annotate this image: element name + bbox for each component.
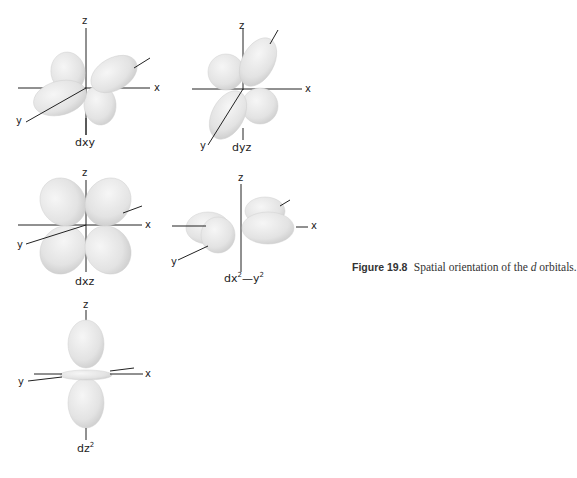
orbital-dx2-y2-panel: z x y dx2—y2 bbox=[160, 160, 340, 300]
y-axis-label: y bbox=[200, 141, 206, 151]
y-axis-label: y bbox=[16, 116, 22, 126]
orbital-dyz-diagram bbox=[180, 0, 320, 160]
x-axis-label: x bbox=[145, 220, 151, 230]
x-axis-label: x bbox=[311, 221, 317, 231]
orbital-dyz-panel: z x y dyz bbox=[180, 0, 320, 160]
y-axis-label: y bbox=[18, 377, 24, 387]
figure-number: Figure 19.8 bbox=[352, 261, 407, 273]
x-axis-label: x bbox=[154, 83, 160, 93]
z-axis-label: z bbox=[82, 168, 87, 178]
orbital-dz2-panel: z x y dz2 bbox=[0, 300, 180, 478]
z-axis-label: z bbox=[82, 16, 87, 26]
orbital-dxy-panel: z x y dxy bbox=[0, 0, 180, 160]
orbital-label-dz2: dz2 bbox=[77, 442, 94, 454]
orbital-label-dx2-y2: dx2—y2 bbox=[224, 272, 264, 284]
orbital-dxz-panel: z x y dxz bbox=[0, 160, 180, 300]
orbital-label-dxz: dxz bbox=[75, 276, 94, 287]
z-axis-label: z bbox=[239, 21, 244, 31]
y-axis-label: y bbox=[17, 240, 23, 250]
x-axis-label: x bbox=[145, 369, 151, 379]
z-axis-label: z bbox=[238, 173, 243, 183]
figure-caption: Figure 19.8 Spatial orientation of the d… bbox=[352, 262, 577, 274]
x-axis-label: x bbox=[305, 84, 311, 94]
y-axis-label: y bbox=[171, 257, 177, 267]
z-axis-label: z bbox=[83, 300, 88, 310]
orbital-label-dxy: dxy bbox=[75, 137, 95, 148]
orbital-label-dyz: dyz bbox=[232, 142, 251, 153]
